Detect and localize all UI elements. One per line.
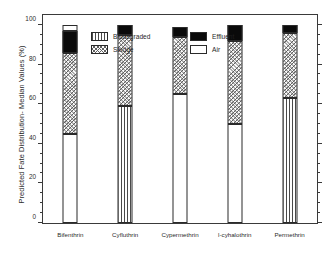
y-tick-label-0: 0 (32, 213, 36, 220)
y-tick-label-60: 60 (29, 94, 36, 101)
y-tick-label-80: 80 (29, 54, 36, 61)
bar-segment-biodegraded[interactable] (282, 98, 297, 223)
y-tick-right-45 (317, 133, 320, 134)
legend-label-sludge: Sludge (113, 46, 134, 53)
y-tick-right-90 (317, 44, 320, 45)
bar-segment-biodegraded[interactable] (227, 124, 242, 223)
bar-segment-biodegraded[interactable] (173, 94, 188, 223)
y-tick-right-5 (317, 212, 320, 213)
y-tick-right-10 (317, 202, 320, 203)
stacked-bar[interactable] (282, 25, 297, 223)
figure: Predicted Fate Distribution- Median Valu… (0, 0, 328, 256)
bar-segment-effluent[interactable] (63, 31, 78, 53)
y-tick-right-25 (317, 172, 320, 173)
y-tick-label-100: 100 (25, 14, 36, 21)
bar-segment-air[interactable] (63, 25, 78, 31)
legend-item-effluent: Effluent (190, 32, 256, 41)
bar-segment-effluent[interactable] (282, 25, 297, 33)
stacked-bar[interactable] (173, 27, 188, 223)
stacked-bar[interactable] (63, 25, 78, 223)
x-tick-label-cypermethrin: Cypermethrin (161, 231, 198, 238)
bar-segment-biodegraded[interactable] (118, 106, 133, 223)
y-tick-right-80 (317, 64, 322, 65)
bar-group-bifenthrin[interactable]: Bifenthrin (63, 15, 78, 223)
bar-group-permethrin[interactable]: Permethrin (282, 15, 297, 223)
y-tick-label-40: 40 (29, 133, 36, 140)
y-tick-right-70 (317, 83, 320, 84)
plot-area: 020406080100 BifenthrinCyfluthrinCyperme… (42, 14, 318, 224)
y-tick-right-20 (317, 182, 322, 183)
legend-label-effluent: Effluent (212, 33, 234, 40)
y-tick-right-40 (317, 143, 322, 144)
x-tick-label-permethrin: Permethrin (274, 231, 304, 238)
bar-segment-sludge[interactable] (63, 53, 78, 134)
x-tick-label-l-cyhalothrin: l-cyhalothrin (218, 231, 251, 238)
y-tick-right-0 (317, 222, 322, 223)
y-tick-right-30 (317, 163, 320, 164)
y-axis-title: Predicted Fate Distribution- Median Valu… (17, 25, 26, 225)
bar-segment-biodegraded[interactable] (63, 134, 78, 223)
legend-item-air: Air (190, 45, 256, 54)
legend-label-air: Air (212, 46, 220, 53)
legend-item-biodegraded: Biodegraded (91, 32, 172, 41)
y-tick-right-15 (317, 192, 320, 193)
y-tick-right-95 (317, 34, 320, 35)
legend-swatch-sludge (91, 45, 108, 54)
y-tick-label-20: 20 (29, 173, 36, 180)
legend-swatch-air (190, 45, 207, 54)
y-tick-right-35 (317, 153, 320, 154)
x-tick-label-bifenthrin: Bifenthrin (57, 231, 83, 238)
y-tick-right-55 (317, 113, 320, 114)
y-tick-right-50 (317, 123, 320, 124)
y-tick-right-65 (317, 93, 320, 94)
x-tick-label-cyfluthrin: Cyfluthrin (112, 231, 138, 238)
legend-swatch-effluent (190, 32, 207, 41)
legend: Biodegraded Effluent Sludge Air (91, 32, 256, 54)
y-tick-right-75 (317, 73, 320, 74)
y-tick-right-60 (317, 103, 322, 104)
y-tick-right-100 (317, 24, 322, 25)
legend-label-biodegraded: Biodegraded (113, 33, 150, 40)
legend-item-sludge: Sludge (91, 45, 172, 54)
legend-swatch-biodegraded (91, 32, 108, 41)
y-tick-right-85 (317, 54, 320, 55)
bar-segment-sludge[interactable] (282, 33, 297, 98)
stacked-bar[interactable] (227, 25, 242, 223)
stacked-bar[interactable] (118, 25, 133, 223)
